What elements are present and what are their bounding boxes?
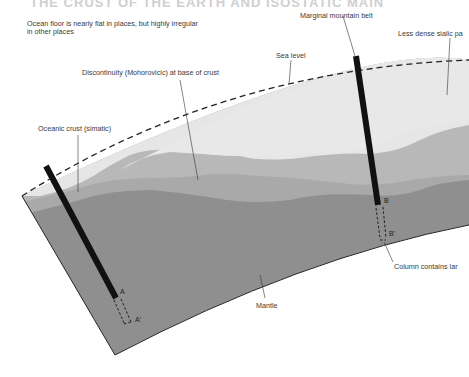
label-less-dense-sialic: Less dense sialic pa [398,30,463,38]
point-b: B [384,197,389,204]
label-discontinuity: Discontinuity (Mohorovicic) at base of c… [82,69,219,77]
label-mantle: Mantle [256,302,278,310]
label-column-contains: Column contains lar [394,263,458,271]
label-marginal-mountain-belt: Marginal mountain belt [300,12,373,20]
leader-column [384,242,393,262]
label-ocean-floor-line2: in other places [27,28,74,36]
leader-sea-level [289,60,291,84]
point-a: A [120,288,125,295]
label-sea-level: Sea level [276,52,306,60]
leader-marginal-mountain [343,16,355,56]
label-oceanic-crust: Oceanic crust (simatic) [38,125,111,133]
earth-crust-cross-section [0,0,469,377]
point-b-prime: B' [389,230,395,237]
point-a-prime: A' [135,316,141,323]
